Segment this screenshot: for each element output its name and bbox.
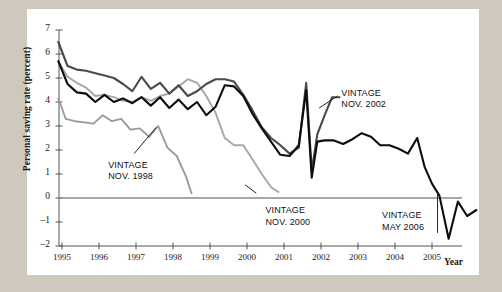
y-tick-label: 6: [28, 47, 50, 57]
y-tick-label: 1: [28, 167, 50, 177]
y-tick-label: 3: [28, 119, 50, 129]
x-tick-label: 1996: [79, 252, 119, 262]
x-tick-label: 2002: [301, 252, 341, 262]
annotation-vintage-nov-2000: VINTAGE NOV. 2000: [266, 205, 311, 228]
x-tick-label: 2005: [412, 252, 452, 262]
annotation-vintage-nov-2002: VINTAGE NOV. 2002: [341, 88, 386, 111]
x-tick-label: 1997: [116, 252, 156, 262]
x-tick-label: 2003: [338, 252, 378, 262]
y-tick-label: –1: [28, 215, 50, 225]
chart-svg: [0, 0, 502, 292]
leader-nov-2000: [245, 185, 256, 193]
x-tick-label: 1999: [190, 252, 230, 262]
x-tick-label: 2000: [227, 252, 267, 262]
y-tick-label: 2: [28, 143, 50, 153]
y-tick-label: 0: [28, 191, 50, 201]
series-line-vintage-nov-2000: [58, 61, 278, 192]
y-tick-label: 5: [28, 71, 50, 81]
x-tick-label: 2004: [375, 252, 415, 262]
y-tick-label: 7: [28, 23, 50, 33]
annotation-vintage-may-2006: VINTAGE MAY 2006: [382, 210, 424, 233]
x-tick-label: 2001: [264, 252, 304, 262]
leader-nov-1998: [134, 127, 156, 153]
y-tick-label: 4: [28, 95, 50, 105]
chart-plot-container: Personal saving rate (percent) Year 7654…: [0, 0, 502, 292]
y-tick-label: –2: [28, 239, 50, 249]
annotation-vintage-nov-1998: VINTAGE NOV. 1998: [108, 160, 153, 183]
x-tick-label: 1998: [153, 252, 193, 262]
x-tick-label: 1995: [42, 252, 82, 262]
